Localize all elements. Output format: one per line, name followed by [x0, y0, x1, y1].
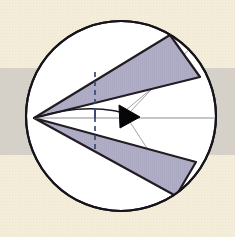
figure-root	[0, 0, 235, 237]
geometry-diagram	[0, 0, 235, 237]
